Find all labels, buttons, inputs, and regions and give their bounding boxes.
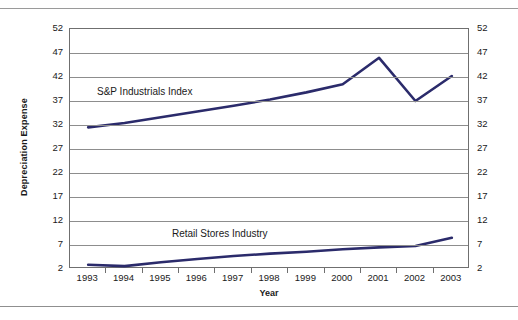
y-tick-label: 47 xyxy=(477,47,503,57)
gridline xyxy=(70,173,468,174)
y-tick-label: 12 xyxy=(477,215,503,225)
x-axis-title: Year xyxy=(69,288,469,298)
y-tick-label: 2 xyxy=(477,263,503,273)
x-tick-mark xyxy=(433,268,434,273)
y-tick-label: 47 xyxy=(37,47,63,57)
gridline xyxy=(70,197,468,198)
plot-area xyxy=(69,28,469,268)
series-line-retail-stores xyxy=(88,238,452,266)
x-tick-label: 2000 xyxy=(322,272,362,283)
x-tick-mark xyxy=(324,268,325,273)
y-tick-label: 32 xyxy=(477,119,503,129)
y-tick-label: 52 xyxy=(37,23,63,33)
series-label-retail-stores: Retail Stores Industry xyxy=(172,228,268,239)
x-tick-label: 1999 xyxy=(285,272,325,283)
y-tick-label: 12 xyxy=(37,215,63,225)
x-tick-mark xyxy=(142,268,143,273)
y-tick-label: 7 xyxy=(37,239,63,249)
x-tick-label: 1993 xyxy=(67,272,107,283)
top-divider xyxy=(0,8,518,9)
series-label-sp-industrials: S&P Industrials Index xyxy=(97,86,192,97)
x-tick-label: 2002 xyxy=(394,272,434,283)
y-tick-label: 17 xyxy=(37,191,63,201)
y-axis-title: Depreciation Expense xyxy=(19,77,29,217)
gridline xyxy=(70,101,468,102)
y-tick-label: 32 xyxy=(37,119,63,129)
y-tick-label: 37 xyxy=(477,95,503,105)
y-tick-label: 17 xyxy=(477,191,503,201)
x-tick-label: 1995 xyxy=(140,272,180,283)
gridline xyxy=(70,245,468,246)
gridline xyxy=(70,53,468,54)
y-tick-label: 52 xyxy=(477,23,503,33)
x-tick-label: 1994 xyxy=(104,272,144,283)
y-tick-label: 2 xyxy=(37,263,63,273)
gridline xyxy=(70,149,468,150)
x-tick-mark xyxy=(214,268,215,273)
x-tick-label: 2003 xyxy=(431,272,471,283)
x-tick-label: 1997 xyxy=(213,272,253,283)
chart-figure: Depreciation Expense 5247423732272217127… xyxy=(0,0,518,320)
bottom-divider xyxy=(0,306,518,307)
x-tick-label: 1996 xyxy=(176,272,216,283)
x-tick-mark xyxy=(251,268,252,273)
x-tick-mark xyxy=(178,268,179,273)
gridline xyxy=(70,125,468,126)
y-tick-label: 42 xyxy=(477,71,503,81)
y-tick-label: 27 xyxy=(37,143,63,153)
x-tick-mark xyxy=(287,268,288,273)
x-tick-label: 2001 xyxy=(358,272,398,283)
x-tick-mark xyxy=(360,268,361,273)
gridline xyxy=(70,221,468,222)
y-tick-label: 37 xyxy=(37,95,63,105)
y-tick-label: 42 xyxy=(37,71,63,81)
gridline xyxy=(70,77,468,78)
y-tick-label: 7 xyxy=(477,239,503,249)
x-tick-label: 1998 xyxy=(249,272,289,283)
y-tick-label: 22 xyxy=(37,167,63,177)
y-tick-label: 27 xyxy=(477,143,503,153)
x-tick-mark xyxy=(105,268,106,273)
y-tick-label: 22 xyxy=(477,167,503,177)
x-tick-mark xyxy=(396,268,397,273)
